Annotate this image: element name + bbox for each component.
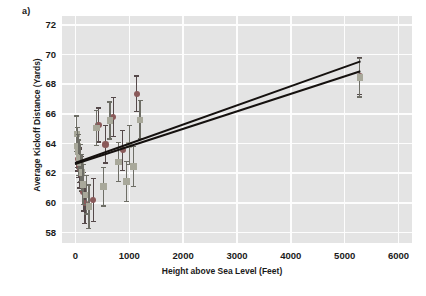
x-tick-label: 1000 bbox=[99, 250, 159, 261]
error-bar-cap bbox=[138, 100, 143, 101]
error-bar-cap bbox=[134, 75, 139, 76]
error-bar-cap bbox=[79, 154, 84, 155]
error-bar-cap bbox=[91, 221, 96, 222]
error-bar-cap bbox=[84, 175, 89, 176]
y-tick-label: 64 bbox=[16, 138, 56, 149]
error-bar-cap bbox=[124, 201, 129, 202]
data-point-circle bbox=[102, 141, 108, 147]
error-bar-cap bbox=[111, 97, 116, 98]
y-tick-label: 60 bbox=[16, 197, 56, 208]
error-bar-cap bbox=[96, 107, 101, 108]
error-bar-cap bbox=[101, 205, 106, 206]
error-bar-cap bbox=[116, 181, 121, 182]
error-bar-cap bbox=[94, 145, 99, 146]
error-bar-cap bbox=[107, 138, 112, 139]
error-bar-cap bbox=[120, 130, 125, 131]
y-tick-label: 70 bbox=[16, 49, 56, 60]
x-tick-label: 5000 bbox=[315, 250, 375, 261]
data-point-square bbox=[107, 117, 113, 123]
error-bar-cap bbox=[76, 134, 81, 135]
gridline-vertical bbox=[398, 16, 400, 243]
data-point-square bbox=[357, 74, 363, 80]
data-point-square bbox=[93, 125, 99, 131]
data-point-square bbox=[100, 183, 106, 189]
error-bar-cap bbox=[76, 139, 81, 140]
y-tick-label: 58 bbox=[16, 227, 56, 238]
data-point-square bbox=[123, 178, 129, 184]
error-bar-cap bbox=[131, 146, 136, 147]
error-bar-cap bbox=[111, 136, 116, 137]
x-axis-label: Height above Sea Level (Feet) bbox=[62, 266, 382, 276]
error-bar-cap bbox=[91, 178, 96, 179]
error-bar-cap bbox=[81, 164, 86, 165]
x-tick-label: 6000 bbox=[369, 250, 426, 261]
plot-area bbox=[62, 16, 412, 243]
x-tick-label: 0 bbox=[45, 250, 105, 261]
error-bar-cap bbox=[127, 125, 132, 126]
y-tick-label: 62 bbox=[16, 167, 56, 178]
data-point-square bbox=[130, 163, 136, 169]
x-tick-label: 4000 bbox=[261, 250, 321, 261]
y-tick-label: 66 bbox=[16, 108, 56, 119]
error-bar-cap bbox=[86, 184, 91, 185]
y-tick-label: 68 bbox=[16, 78, 56, 89]
y-tick-label: 72 bbox=[16, 19, 56, 30]
data-point-square bbox=[86, 203, 92, 209]
x-tick-label: 2000 bbox=[153, 250, 213, 261]
x-tick-label: 3000 bbox=[207, 250, 267, 261]
error-bar-cap bbox=[94, 110, 99, 111]
error-bar-cap bbox=[86, 228, 91, 229]
data-point-square bbox=[137, 117, 143, 123]
error-bar-cap bbox=[101, 167, 106, 168]
error-bar-cap bbox=[357, 96, 362, 97]
gridline-vertical bbox=[236, 16, 238, 243]
data-point-square bbox=[115, 159, 121, 165]
panel-label: a) bbox=[22, 6, 30, 16]
figure-panel: a) Average Kickoff Distance (Yards) 5860… bbox=[0, 0, 426, 296]
error-bar-cap bbox=[116, 142, 121, 143]
error-bar-cap bbox=[107, 101, 112, 102]
gridline-vertical bbox=[344, 16, 346, 243]
error-bar-cap bbox=[82, 223, 87, 224]
error-bar-cap bbox=[131, 186, 136, 187]
error-bar-cap bbox=[357, 58, 362, 59]
error-bar-cap bbox=[78, 144, 83, 145]
data-point-circle bbox=[134, 91, 140, 97]
error-bar-cap bbox=[103, 162, 108, 163]
error-bar-cap bbox=[74, 115, 79, 116]
error-bar-cap bbox=[103, 125, 108, 126]
gridline-vertical bbox=[290, 16, 292, 243]
error-bar-cap bbox=[120, 170, 125, 171]
error-bar-cap bbox=[75, 127, 80, 128]
